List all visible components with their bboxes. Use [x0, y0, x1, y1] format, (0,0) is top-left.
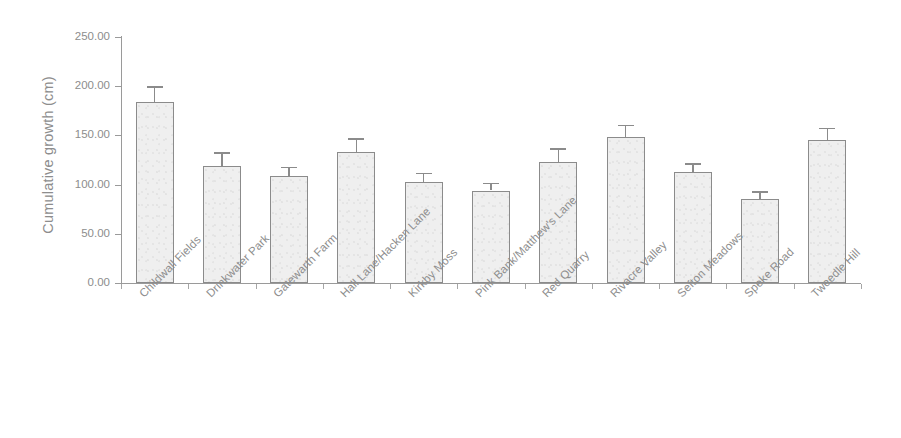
error-bar-cap — [483, 183, 499, 185]
error-bar-cap — [550, 148, 566, 150]
error-bar-cap — [281, 167, 297, 169]
error-bar-cap — [348, 138, 364, 140]
error-bar-stem — [356, 138, 358, 152]
error-bar-cap — [819, 128, 835, 130]
error-bar-stem — [827, 128, 829, 141]
bar — [136, 102, 174, 283]
error-bar-cap — [685, 163, 701, 165]
error-bar-stem — [625, 125, 627, 138]
error-bar-cap — [416, 173, 432, 175]
bars-layer — [0, 0, 901, 438]
error-bar-stem — [558, 148, 560, 162]
error-bar-cap — [214, 152, 230, 154]
error-bar-stem — [154, 86, 156, 102]
chart-figure: Cumulative growth (cm) 0.0050.00100.0015… — [0, 0, 901, 438]
bar-texture — [137, 103, 173, 282]
error-bar-cap — [618, 125, 634, 127]
error-bar-stem — [221, 152, 223, 166]
error-bar-cap — [752, 191, 768, 193]
error-bar-cap — [147, 86, 163, 88]
